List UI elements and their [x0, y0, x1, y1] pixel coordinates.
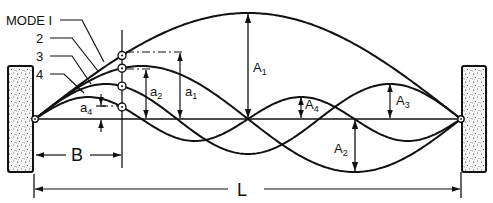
left-support: [8, 66, 33, 172]
right-pin-icon: [458, 116, 464, 122]
a1-label: a1: [185, 84, 197, 101]
right-support: [462, 66, 486, 172]
left-pin-icon: [32, 116, 38, 122]
A3-label: A3: [396, 93, 410, 110]
mode-leaders: [50, 20, 104, 93]
mode-shape-diagram: a1 a2 a4 A1 A4 A3 A2 MODE I 2 3 4: [0, 0, 493, 203]
L-label: L: [237, 180, 247, 200]
A1-label: A1: [253, 60, 267, 77]
mode-1-label: MODE I: [6, 13, 52, 28]
B-label: B: [71, 145, 83, 165]
A2-label: A2: [334, 141, 348, 158]
a2-label: a2: [150, 84, 162, 101]
a4-label: a4: [80, 100, 92, 117]
mode-3-label: 3: [36, 49, 43, 64]
mode-2-label: 2: [36, 31, 43, 46]
reference-lines: [100, 52, 185, 106]
mode-4-label: 4: [36, 67, 43, 82]
